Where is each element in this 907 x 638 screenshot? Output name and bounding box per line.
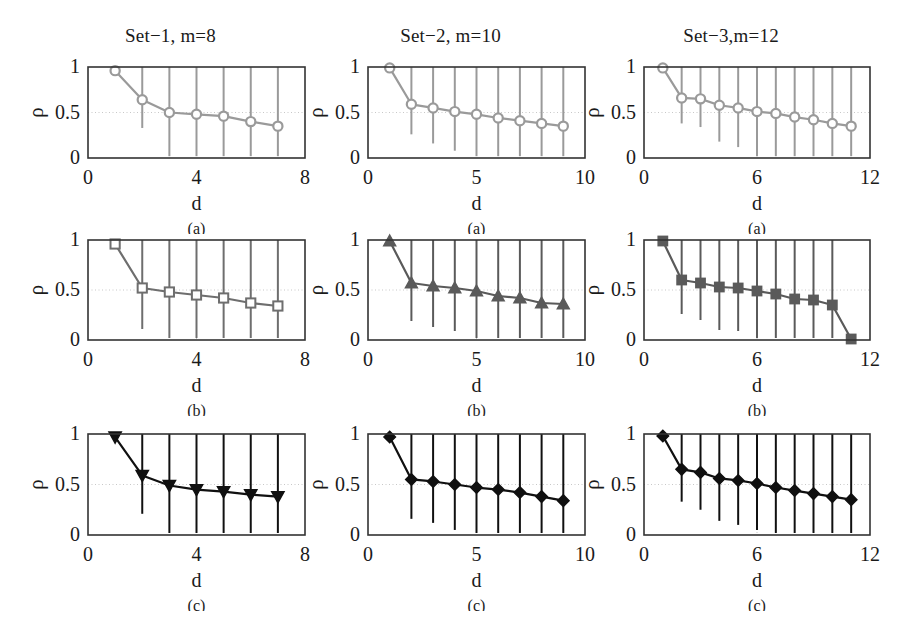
x-tick-label: 12: [860, 348, 880, 370]
data-point-marker: [658, 63, 667, 72]
y-axis-label: ρ: [24, 107, 48, 117]
x-tick-label: 0: [363, 166, 373, 188]
panel-subcaption: (c): [748, 597, 766, 611]
data-point-marker: [385, 63, 394, 72]
y-tick-label: 1: [626, 422, 636, 444]
x-tick-label: 5: [472, 166, 482, 188]
data-point-marker: [734, 283, 743, 292]
x-tick-label: 0: [83, 166, 93, 188]
y-tick-label: 0.5: [55, 473, 80, 495]
data-point-marker: [192, 290, 201, 299]
data-point-marker: [429, 103, 438, 112]
data-point-marker: [771, 109, 780, 118]
y-tick-label: 0.5: [611, 473, 636, 495]
y-axis-label: ρ: [580, 285, 604, 295]
y-tick-label: 1: [350, 228, 360, 250]
data-point-marker: [696, 278, 705, 287]
plot-area: 00.51048dρ(c): [16, 392, 343, 611]
x-tick-label: 0: [83, 348, 93, 370]
y-tick-label: 1: [70, 228, 80, 250]
y-axis-label: ρ: [580, 479, 604, 489]
data-point-marker: [492, 484, 504, 496]
x-tick-label: 0: [83, 543, 93, 565]
x-axis-label: d: [192, 569, 202, 591]
data-point-marker: [847, 334, 856, 343]
y-tick-label: 0: [626, 523, 636, 545]
data-point-marker: [657, 430, 669, 442]
x-tick-label: 5: [472, 543, 482, 565]
x-tick-label: 0: [639, 543, 649, 565]
error-bars: [115, 434, 278, 533]
data-point-marker: [246, 298, 255, 307]
y-tick-label: 1: [70, 55, 80, 77]
panel-subcaption: (c): [188, 597, 206, 611]
data-point-marker: [847, 122, 856, 131]
y-tick-label: 0: [350, 523, 360, 545]
y-tick-label: 0: [70, 328, 80, 350]
data-point-marker: [715, 101, 724, 110]
x-tick-label: 4: [192, 166, 202, 188]
data-point-marker: [219, 293, 228, 302]
x-tick-label: 0: [639, 166, 649, 188]
x-tick-label: 6: [752, 543, 762, 565]
y-tick-label: 0.5: [611, 278, 636, 300]
data-point-marker: [472, 110, 481, 119]
x-tick-label: 0: [363, 543, 373, 565]
data-point-marker: [752, 107, 761, 116]
data-point-marker: [559, 122, 568, 131]
data-point-marker: [658, 236, 667, 245]
data-point-marker: [696, 94, 705, 103]
data-point-marker: [246, 117, 255, 126]
x-axis-label: d: [752, 569, 762, 591]
y-tick-label: 1: [350, 422, 360, 444]
data-point-marker: [138, 95, 147, 104]
data-point-marker: [219, 112, 228, 121]
panel-subcaption: (c): [468, 597, 486, 611]
data-point-marker: [695, 467, 707, 479]
data-point-marker: [809, 295, 818, 304]
x-tick-label: 5: [472, 348, 482, 370]
data-point-marker: [406, 474, 418, 486]
y-axis-label: ρ: [304, 107, 328, 117]
y-tick-label: 1: [70, 422, 80, 444]
data-point-marker: [751, 478, 763, 490]
data-point-marker: [845, 494, 857, 506]
y-axis-label: ρ: [304, 479, 328, 489]
data-point-marker: [770, 482, 782, 494]
data-point-marker: [827, 491, 839, 503]
y-tick-label: 0.5: [335, 278, 360, 300]
x-tick-label: 4: [192, 543, 202, 565]
figure-canvas: Set−1, m=800.51048dρ(a)Set−2, m=1000.510…: [0, 0, 907, 638]
data-point-marker: [427, 476, 439, 488]
plot-area: 00.510612dρ(b): [572, 198, 907, 416]
data-point-marker: [734, 103, 743, 112]
data-point-marker: [677, 275, 686, 284]
data-point-marker: [449, 479, 461, 491]
y-tick-label: 0.5: [55, 278, 80, 300]
x-tick-label: 6: [752, 348, 762, 370]
y-tick-label: 0: [626, 328, 636, 350]
data-point-marker: [558, 495, 570, 507]
data-point-marker: [407, 100, 416, 109]
x-tick-label: 0: [639, 348, 649, 370]
data-point-marker: [828, 119, 837, 128]
y-tick-label: 0.5: [335, 101, 360, 123]
y-tick-label: 0: [350, 328, 360, 350]
y-tick-label: 0: [626, 146, 636, 168]
y-tick-label: 1: [626, 55, 636, 77]
data-point-marker: [536, 491, 548, 503]
y-tick-label: 1: [350, 55, 360, 77]
data-point-marker: [405, 277, 417, 288]
data-point-marker: [677, 93, 686, 102]
y-tick-label: 1: [626, 228, 636, 250]
y-axis-label: ρ: [24, 479, 48, 489]
data-point-marker: [676, 464, 688, 476]
plot-area: 00.51048dρ(b): [16, 198, 343, 416]
data-point-marker: [771, 289, 780, 298]
x-tick-label: 12: [860, 166, 880, 188]
x-tick-label: 12: [860, 543, 880, 565]
data-point-marker: [808, 488, 820, 500]
x-tick-label: 6: [752, 166, 762, 188]
y-axis-label: ρ: [304, 285, 328, 295]
data-point-marker: [138, 283, 147, 292]
